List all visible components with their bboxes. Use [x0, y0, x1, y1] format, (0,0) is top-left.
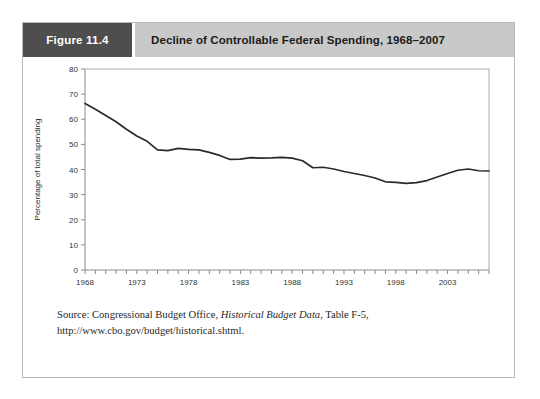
- chart-svg: Percentage of total spending 01020304050…: [23, 57, 514, 305]
- y-tick-label: 40: [69, 166, 78, 175]
- plot-frame: [85, 69, 489, 270]
- source-italic-title: Historical Budget Data: [221, 309, 320, 320]
- line-chart: Percentage of total spending 01020304050…: [23, 57, 514, 305]
- x-tick-label: 1968: [76, 278, 94, 287]
- source-prefix: Source: Congressional Budget Office,: [57, 309, 221, 320]
- x-tick-label: 1973: [128, 278, 146, 287]
- figure-container: Figure 11.4 Decline of Controllable Fede…: [22, 22, 515, 378]
- y-tick-label: 20: [69, 216, 78, 225]
- y-tick-label: 70: [69, 90, 78, 99]
- y-tick-label: 0: [74, 266, 79, 275]
- y-tick-label: 10: [69, 241, 78, 250]
- x-axis-ticks: 19681973197819831988199319982003: [76, 270, 489, 287]
- figure-title: Decline of Controllable Federal Spending…: [135, 23, 514, 57]
- x-tick-label: 1998: [387, 278, 405, 287]
- x-tick-label: 1983: [231, 278, 249, 287]
- y-axis-title: Percentage of total spending: [33, 119, 42, 221]
- x-tick-label: 2003: [439, 278, 457, 287]
- x-tick-label: 1988: [283, 278, 301, 287]
- figure-header: Figure 11.4 Decline of Controllable Fede…: [23, 23, 514, 57]
- x-tick-label: 1978: [180, 278, 198, 287]
- y-tick-label: 60: [69, 115, 78, 124]
- x-tick-label: 1993: [335, 278, 353, 287]
- y-axis-title-text: Percentage of total spending: [33, 119, 42, 221]
- source-note: Source: Congressional Budget Office, His…: [57, 307, 489, 339]
- y-tick-label: 50: [69, 140, 78, 149]
- series-line: [85, 103, 489, 183]
- y-tick-label: 30: [69, 191, 78, 200]
- figure-number-label: Figure 11.4: [23, 23, 135, 57]
- y-tick-label: 80: [69, 65, 78, 74]
- data-series: [85, 103, 489, 183]
- figure-body: Percentage of total spending 01020304050…: [23, 57, 514, 377]
- y-axis-ticks: 01020304050607080: [69, 65, 85, 275]
